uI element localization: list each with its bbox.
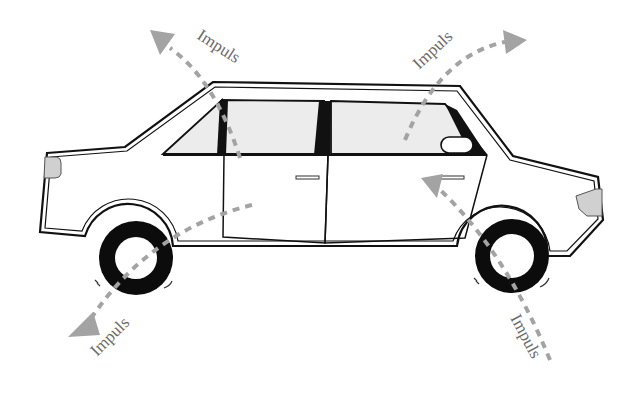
tail-light — [44, 157, 61, 178]
front-wheel — [474, 219, 549, 293]
impulse-label-bottom-right: Impuls — [506, 311, 545, 362]
rear-door-window — [222, 100, 324, 154]
front-door-handle — [441, 176, 464, 179]
rear-hub — [115, 237, 157, 279]
front-hub — [490, 234, 534, 278]
rear-wheel — [95, 221, 173, 295]
arrowhead-icon — [503, 30, 527, 54]
impulse-label-top-left: Impuls — [194, 25, 244, 67]
rear-door — [223, 155, 328, 243]
front-motion-arc — [540, 278, 549, 287]
side-mirror — [441, 137, 473, 153]
front-motion-mark — [474, 278, 479, 284]
rear-quarter-window — [163, 100, 222, 154]
impulse-car-diagram: Impuls Impuls Impuls Impuls — [0, 0, 633, 398]
impulse-label-top-right: Impuls — [409, 27, 457, 73]
arrowhead-icon — [150, 30, 175, 55]
rear-door-handle — [296, 176, 319, 179]
head-light — [576, 189, 602, 216]
rear-motion-arc — [164, 281, 172, 288]
rear-motion-mark — [95, 280, 100, 286]
arrowhead-icon — [421, 174, 443, 198]
